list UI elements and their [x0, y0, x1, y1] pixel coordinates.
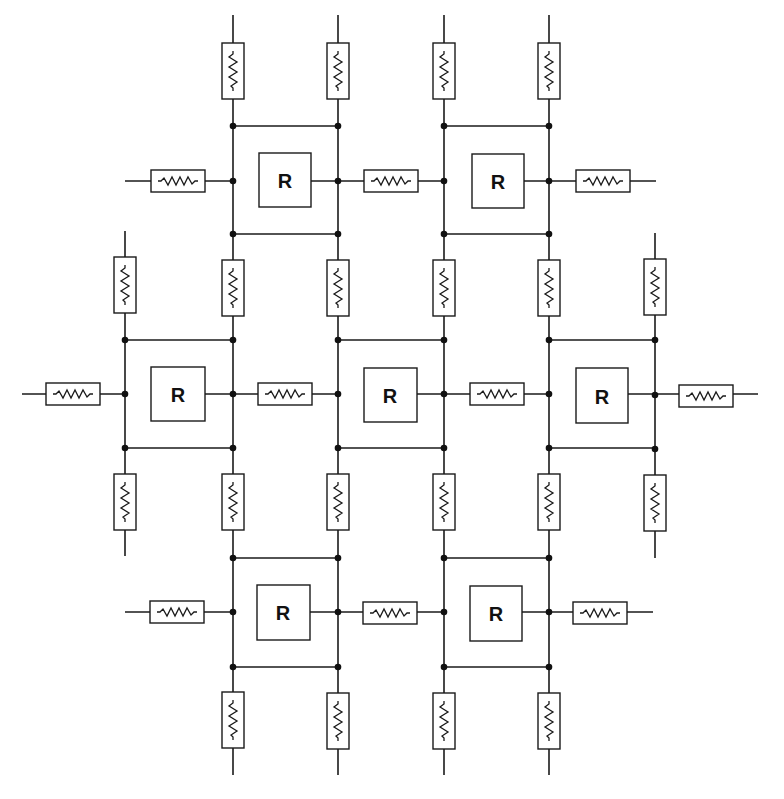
r-unit-mid-left: R [151, 367, 205, 421]
resistor [433, 474, 455, 530]
resistor [327, 43, 349, 99]
r-unit-top-left: R [259, 153, 311, 207]
resistor [222, 43, 244, 99]
resistor [644, 475, 666, 531]
r-units: R R R R R R R [151, 153, 628, 641]
resistor [433, 693, 455, 749]
resistor [573, 602, 627, 624]
r-unit-label: R [383, 385, 398, 407]
resistor [151, 170, 205, 192]
resistor [150, 601, 204, 623]
r-unit-label: R [491, 171, 506, 193]
r-unit-mid-center: R [364, 368, 417, 422]
r-unit-top-right: R [472, 154, 524, 208]
r-unit-mid-right: R [576, 368, 628, 423]
resistor [114, 257, 136, 313]
resistor-grid-diagram: R R R R R R R [0, 0, 784, 799]
r-unit-label: R [489, 603, 504, 625]
resistor [114, 474, 136, 530]
r-unit-label: R [278, 170, 293, 192]
resistor [222, 474, 244, 530]
r-unit-bottom-left: R [257, 585, 310, 640]
resistor [679, 385, 733, 407]
r-unit-label: R [595, 386, 610, 408]
resistor [538, 260, 560, 316]
resistor [644, 259, 666, 315]
resistor [46, 383, 100, 405]
r-unit-label: R [276, 602, 291, 624]
resistor [433, 260, 455, 316]
resistor [576, 170, 630, 192]
resistor [327, 693, 349, 749]
resistor [327, 474, 349, 530]
resistor [327, 260, 349, 316]
resistor [363, 602, 417, 624]
resistor [433, 43, 455, 99]
resistor [538, 693, 560, 749]
resistor [364, 170, 418, 192]
resistor [258, 383, 312, 405]
r-unit-bottom-right: R [470, 586, 522, 641]
resistor [222, 692, 244, 748]
r-unit-label: R [171, 384, 186, 406]
resistor [470, 383, 524, 405]
resistor [222, 260, 244, 316]
resistor [538, 474, 560, 530]
resistor [538, 43, 560, 99]
